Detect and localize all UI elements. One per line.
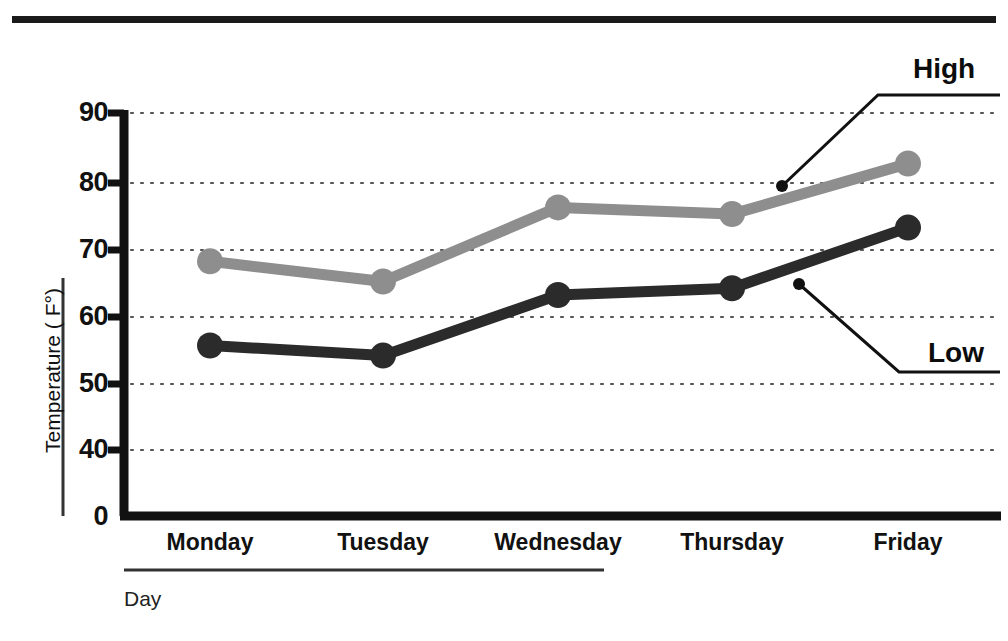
y-axis-title: Temperature ( F°): [42, 246, 63, 496]
series-high-point-friday[interactable]: [895, 151, 921, 177]
series-low-point-thursday[interactable]: [719, 275, 745, 301]
series-low-point-monday[interactable]: [197, 333, 223, 359]
series-low[interactable]: [197, 215, 921, 369]
x-axis-title: Day: [124, 588, 161, 609]
x-tick-label-monday: Monday: [130, 531, 290, 554]
x-tick-label-thursday: Thursday: [652, 531, 812, 554]
y-tick-label-80: 80: [46, 169, 108, 196]
callout-low-anchor-dot: [793, 278, 805, 290]
callout-high: [776, 95, 1000, 192]
x-tick-label-friday: Friday: [833, 531, 983, 554]
series-label-high: High: [913, 55, 975, 83]
temperature-line-chart: 90 80 70 60 50 40 0 Monday Tuesday Wedne…: [0, 0, 1008, 641]
gridlines: [131, 113, 1000, 450]
series-high[interactable]: [197, 151, 921, 295]
callout-high-anchor-dot: [776, 180, 788, 192]
y-tick-label-90: 90: [46, 99, 108, 126]
y-tick-label-0: 0: [46, 503, 108, 530]
series-low-point-friday[interactable]: [895, 215, 921, 241]
series-label-low: Low: [928, 339, 984, 367]
x-tick-label-tuesday: Tuesday: [303, 531, 463, 554]
series-high-point-wednesday[interactable]: [545, 194, 571, 220]
x-tick-label-wednesday: Wednesday: [466, 531, 650, 554]
series-high-point-tuesday[interactable]: [370, 269, 396, 295]
series-high-point-monday[interactable]: [197, 248, 223, 274]
series-low-point-tuesday[interactable]: [370, 343, 396, 369]
series-high-point-thursday[interactable]: [719, 201, 745, 227]
series-low-point-wednesday[interactable]: [545, 282, 571, 308]
